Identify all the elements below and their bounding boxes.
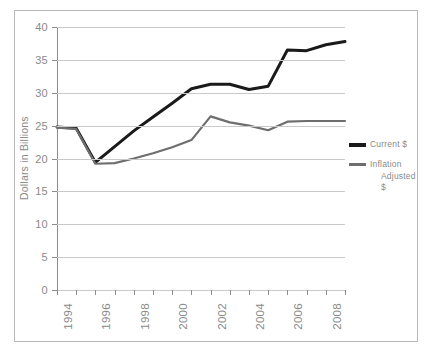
x-tick	[191, 290, 192, 295]
gridline	[57, 224, 345, 225]
gridline	[57, 27, 345, 28]
x-tick-label: 2004	[254, 303, 266, 330]
legend-item-current: Current $	[349, 139, 415, 150]
x-tick	[249, 290, 250, 295]
y-tick-label: 25	[35, 120, 48, 132]
x-tick-label: 1994	[62, 303, 74, 330]
x-tick-label: 2000	[177, 303, 189, 330]
x-tick-label: 2008	[331, 303, 343, 330]
gridline	[57, 290, 345, 291]
y-tick	[52, 257, 57, 258]
x-tick	[345, 290, 346, 295]
legend-label-current: Current $	[370, 139, 407, 150]
legend-swatch-current-icon	[349, 143, 366, 147]
legend-label-inflation: Inflation Adjusted $	[370, 159, 416, 193]
x-tick	[211, 290, 212, 295]
x-tick	[76, 290, 77, 295]
gridline	[57, 159, 345, 160]
x-tick	[115, 290, 116, 295]
y-tick	[52, 159, 57, 160]
y-tick-label: 35	[35, 54, 48, 66]
y-tick	[52, 27, 57, 28]
legend-item-inflation: Inflation Adjusted $	[349, 159, 415, 193]
x-tick-label: 2002	[216, 303, 228, 330]
x-tick	[326, 290, 327, 295]
y-tick-label: 30	[35, 87, 48, 99]
y-tick-label: 5	[42, 251, 48, 263]
x-tick	[230, 290, 231, 295]
plot-area: 4035302520151050	[57, 27, 345, 290]
y-tick	[52, 60, 57, 61]
y-axis-title: Dollars in Billions	[18, 116, 30, 200]
x-tick	[134, 290, 135, 295]
y-tick-label: 15	[35, 185, 48, 197]
legend-label-inflation-line2: Adjusted $	[370, 171, 416, 194]
x-tick	[153, 290, 154, 295]
chart-figure: Dollars in Billions 4035302520151050 Cur…	[0, 0, 432, 359]
x-tick	[95, 290, 96, 295]
gridline	[57, 191, 345, 192]
y-tick-label: 20	[35, 153, 48, 165]
x-tick	[287, 290, 288, 295]
x-tick	[268, 290, 269, 295]
y-tick	[52, 126, 57, 127]
y-tick	[52, 93, 57, 94]
y-tick	[52, 191, 57, 192]
x-tick	[307, 290, 308, 295]
gridline	[57, 257, 345, 258]
gridline	[57, 126, 345, 127]
gridline	[57, 60, 345, 61]
legend-swatch-inflation-icon	[349, 163, 366, 166]
y-tick	[52, 224, 57, 225]
gridline	[57, 93, 345, 94]
x-tick	[172, 290, 173, 295]
legend-label-inflation-line1: Inflation	[370, 159, 402, 169]
x-tick	[57, 290, 58, 295]
y-tick-label: 40	[35, 21, 48, 33]
y-tick-label: 0	[42, 284, 48, 296]
chart-legend: Current $ Inflation Adjusted $	[349, 139, 415, 203]
y-tick-label: 10	[35, 218, 48, 230]
x-tick-label: 2006	[292, 303, 304, 330]
x-tick-label: 1996	[100, 303, 112, 330]
x-tick-label: 1998	[139, 303, 151, 330]
